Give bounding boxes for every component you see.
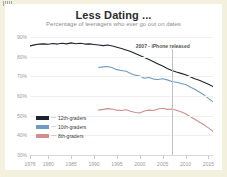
x-axis-tick	[71, 156, 72, 159]
x-axis-tick-label: 2010	[180, 161, 191, 167]
chart-legend: —12th-graders—10th-graders—8th-graders	[36, 113, 86, 140]
x-axis-tick	[117, 156, 118, 159]
x-axis-tick	[30, 156, 31, 159]
legend-item: —8th-graders	[36, 131, 86, 140]
y-axis-tick-label: 90%	[17, 34, 27, 40]
chart-subtitle: Percentage of teenagers who ever go out …	[5, 21, 222, 27]
x-axis-tick-label: 2015	[203, 161, 214, 167]
y-axis-tick-label: 30%	[17, 152, 27, 158]
y-axis-tick-label: 80%	[17, 54, 27, 60]
y-axis-tick-label: 60%	[17, 93, 27, 99]
x-axis-tick	[163, 156, 164, 159]
legend-dash: —	[51, 133, 56, 138]
x-axis-tick	[140, 156, 141, 159]
legend-swatch	[36, 125, 49, 129]
legend-item: —10th-graders	[36, 122, 86, 131]
page-title: Less Dating ...	[5, 9, 222, 21]
legend-label: 8th-graders	[58, 133, 84, 139]
legend-item: —12th-graders	[36, 113, 86, 122]
chart-card: Less Dating ... Percentage of teenagers …	[5, 4, 222, 170]
gridline	[30, 57, 213, 58]
x-axis-tick	[186, 156, 187, 159]
x-axis-tick-label: 2005	[157, 161, 168, 167]
iphone-reference-line	[172, 49, 173, 155]
x-axis-tick-label: 1985	[66, 161, 77, 167]
legend-label: 10th-graders	[58, 124, 86, 130]
gridline	[30, 37, 213, 38]
y-axis-tick-label: 40%	[17, 132, 27, 138]
y-axis-tick-label: 70%	[17, 73, 27, 79]
x-axis-tick-label: 1976	[24, 161, 35, 167]
x-axis-tick	[208, 156, 209, 159]
y-axis-tick-label: 50%	[17, 113, 27, 119]
x-axis-tick	[94, 156, 95, 159]
gridline	[30, 96, 213, 97]
x-axis-tick-label: 2000	[134, 161, 145, 167]
x-axis-tick-label: 1995	[111, 161, 122, 167]
legend-swatch	[36, 134, 49, 138]
x-axis-tick	[48, 156, 49, 159]
legend-label: 12th-graders	[58, 115, 86, 121]
legend-dash: —	[51, 124, 56, 129]
gridline	[30, 76, 213, 77]
series-line	[99, 108, 213, 131]
x-axis-tick-label: 1990	[88, 161, 99, 167]
x-axis-tick-label: 1980	[43, 161, 54, 167]
legend-swatch	[36, 116, 49, 120]
iphone-annotation: 2007 - iPhone released	[136, 43, 190, 49]
legend-dash: —	[51, 115, 56, 120]
series-line	[30, 43, 213, 87]
